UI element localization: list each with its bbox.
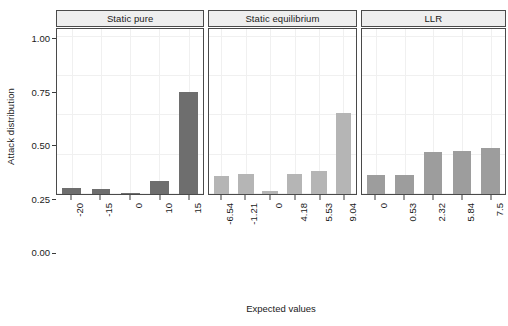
panel-title-strip: Static pure: [56, 10, 204, 27]
x-axis-labels: -20-1501015: [56, 201, 204, 253]
x-axis-tick-label: 7.5: [495, 203, 505, 216]
bar-slot: [476, 29, 505, 194]
x-axis-tick-mark: [491, 195, 492, 200]
bar-slot: [331, 29, 355, 194]
chart-panel: Static equilibrium-6.54-1.2104.185.539.0…: [208, 10, 356, 253]
bar[interactable]: [62, 188, 81, 194]
chart-panel: Static pure-20-1501015: [56, 10, 204, 253]
panel-title-strip: LLR: [361, 10, 506, 27]
plot-area: [56, 28, 204, 195]
bar-slot: [116, 29, 145, 194]
y-axis-tick-label: 1.00: [32, 34, 51, 44]
x-axis-tick-label: 4.18: [299, 203, 309, 222]
x-axis-tick-label: 0: [274, 203, 284, 208]
x-axis-labels: -6.54-1.2104.185.539.04: [208, 201, 356, 253]
x-axis-tick-mark: [189, 195, 190, 200]
x-axis-title: Expected values: [56, 303, 506, 314]
x-axis-tick-mark: [130, 195, 131, 200]
bar-slot: [282, 29, 306, 194]
x-axis-tick-label: 10: [164, 203, 174, 214]
x-axis-tick-label: 5.84: [466, 203, 476, 222]
bar-slot: [419, 29, 448, 194]
bar-slot: [57, 29, 86, 194]
x-axis-tick-label: -6.54: [225, 203, 235, 225]
bar[interactable]: [395, 175, 413, 194]
x-axis-tick-label: 0: [379, 203, 389, 208]
x-axis-tick-label: 9.04: [348, 203, 358, 222]
x-axis-tick-label: 15: [193, 203, 203, 214]
x-axis-tick-label: -15: [104, 203, 114, 217]
y-axis-tick-label: 0.50: [32, 141, 51, 151]
x-axis-tick-label: 2.32: [437, 203, 447, 222]
x-axis-tick-mark: [159, 195, 160, 200]
bar-slot: [390, 29, 419, 194]
bar-slot: [209, 29, 233, 194]
bar-series: [209, 29, 355, 194]
panel-title-strip: Static equilibrium: [208, 10, 356, 27]
bar[interactable]: [367, 175, 385, 194]
plot-area: [361, 28, 506, 195]
x-axis-tick-label: -1.21: [249, 203, 259, 225]
bar[interactable]: [262, 191, 278, 194]
y-axis-title: Attack distribution: [2, 0, 18, 253]
x-axis-tick-mark: [270, 195, 271, 200]
bar-slot: [362, 29, 391, 194]
panel-title-label: LLR: [424, 13, 442, 24]
panel-row: Static pure-20-1501015Static equilibrium…: [56, 10, 506, 253]
x-axis-tick-mark: [100, 195, 101, 200]
bar-slot: [234, 29, 258, 194]
bar[interactable]: [214, 176, 230, 194]
panel-title-label: Static pure: [107, 13, 154, 24]
bar[interactable]: [453, 151, 471, 194]
bar[interactable]: [336, 113, 352, 194]
bar[interactable]: [424, 152, 442, 194]
x-axis-tick-mark: [344, 195, 345, 200]
bar-series: [57, 29, 203, 194]
x-axis-tick-mark: [294, 195, 295, 200]
y-axis-tick-label: 0.75: [32, 88, 51, 98]
x-axis-tick-mark: [70, 195, 71, 200]
bar[interactable]: [121, 193, 140, 194]
bar-slot: [86, 29, 115, 194]
bar[interactable]: [311, 171, 327, 194]
bar-slot: [174, 29, 203, 194]
bar-slot: [258, 29, 282, 194]
plot-area: [208, 28, 356, 195]
bar[interactable]: [287, 174, 303, 194]
faceted-bar-chart: Attack distribution 0.000.250.500.751.00…: [0, 0, 508, 326]
chart-panel: LLR00.532.325.847.5: [361, 10, 506, 253]
x-axis-tick-label: 5.53: [324, 203, 334, 222]
y-axis: 0.000.250.500.751.00: [18, 28, 56, 253]
bar-series: [362, 29, 505, 194]
x-axis-tick-mark: [433, 195, 434, 200]
x-axis-tick-label: -20: [75, 203, 85, 217]
x-axis-tick-mark: [220, 195, 221, 200]
bar[interactable]: [150, 181, 169, 194]
x-axis-tick-mark: [404, 195, 405, 200]
bar-slot: [145, 29, 174, 194]
x-axis-tick-label: 0: [134, 203, 144, 208]
x-axis-tick-mark: [462, 195, 463, 200]
bar[interactable]: [481, 148, 499, 194]
panel-title-label: Static equilibrium: [245, 13, 319, 24]
x-axis-labels: 00.532.325.847.5: [361, 201, 506, 253]
x-axis-tick-mark: [319, 195, 320, 200]
bar[interactable]: [238, 174, 254, 194]
bar[interactable]: [179, 92, 198, 194]
x-axis-tick-mark: [375, 195, 376, 200]
y-axis-tick-label: 0.25: [32, 195, 51, 205]
x-axis-tick-label: 0.53: [408, 203, 418, 222]
bar[interactable]: [92, 189, 111, 195]
x-axis-tick-mark: [245, 195, 246, 200]
bar-slot: [307, 29, 331, 194]
y-axis-tick-label: 0.00: [32, 248, 51, 258]
bar-slot: [448, 29, 477, 194]
